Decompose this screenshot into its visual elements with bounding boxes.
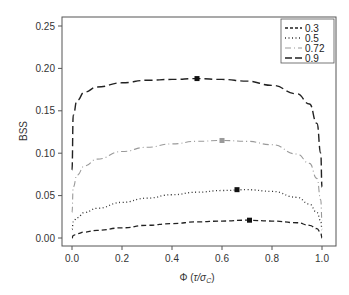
y-tick-label: 0.00: [36, 233, 56, 244]
y-axis: 0.000.050.100.150.200.25: [36, 21, 62, 244]
max-marker-0-5: [235, 187, 240, 192]
bss-line-chart: 0.000.050.100.150.200.25 0.00.20.40.60.8…: [0, 0, 349, 295]
x-tick-label: 0.8: [265, 253, 279, 264]
x-tick-label: 0.6: [215, 253, 229, 264]
legend: 0.30.50.720.9: [281, 19, 334, 64]
y-tick-label: 0.20: [36, 63, 56, 74]
y-tick-label: 0.15: [36, 105, 56, 116]
y-tick-label: 0.25: [36, 21, 56, 32]
max-marker-0-72: [220, 138, 225, 143]
legend-label: 0.9: [305, 53, 319, 64]
x-tick-label: 1.0: [315, 253, 329, 264]
max-marker-0-9: [195, 76, 200, 81]
x-tick-label: 0.0: [65, 253, 79, 264]
y-tick-label: 0.10: [36, 148, 56, 159]
y-tick-label: 0.05: [36, 190, 56, 201]
x-axis: 0.00.20.40.60.81.0: [65, 246, 329, 264]
y-axis-title: BSS: [18, 121, 29, 141]
max-marker-0-3: [247, 218, 252, 223]
x-tick-label: 0.4: [165, 253, 179, 264]
x-tick-label: 0.2: [115, 253, 129, 264]
x-axis-title: Φ (τ/σC): [179, 272, 214, 284]
